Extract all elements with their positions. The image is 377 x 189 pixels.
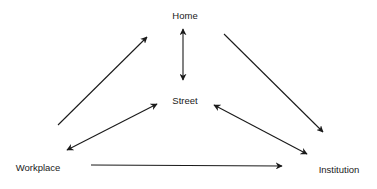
diagram-canvas: Home Street Workplace Institution — [0, 0, 377, 189]
edge-workplace-to-home — [58, 37, 147, 125]
node-home: Home — [172, 10, 197, 21]
edge-home-to-institution — [224, 34, 323, 132]
edge-street-institution — [214, 105, 307, 154]
node-workplace: Workplace — [16, 162, 61, 173]
edge-workplace-to-institution — [91, 165, 282, 166]
node-street: Street — [172, 95, 197, 106]
edge-street-workplace — [67, 104, 157, 150]
node-institution: Institution — [319, 164, 360, 175]
